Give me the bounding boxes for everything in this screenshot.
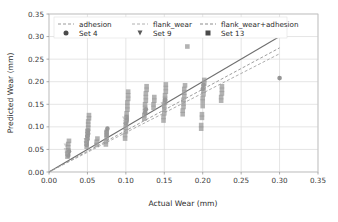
scatter-plot: 0.000.050.100.150.200.250.300.35 0.000.0…	[0, 0, 338, 222]
legend-label-set-4: Set 4	[79, 29, 98, 38]
y-tick-label: 0.25	[28, 55, 44, 64]
chart-figure: 0.000.050.100.150.200.250.300.35 0.000.0…	[0, 0, 338, 222]
x-tick-label: 0.30	[272, 176, 288, 185]
x-tick-label: 0.15	[156, 176, 172, 185]
x-tick-label: 0.05	[79, 176, 95, 185]
y-tick-label: 0.10	[28, 122, 44, 131]
data-point	[67, 139, 72, 144]
legend-label-flank_wear+adhesion: flank_wear+adhesion	[221, 20, 299, 29]
data-point	[200, 112, 205, 117]
data-point	[95, 136, 100, 141]
x-tick-label: 0.00	[41, 176, 57, 185]
data-point	[200, 104, 205, 109]
legend-label-set-9: Set 9	[153, 29, 172, 38]
data-point	[164, 82, 169, 87]
data-point	[87, 113, 92, 118]
legend-marker-square	[206, 31, 211, 36]
x-tick-label: 0.10	[118, 176, 134, 185]
data-point	[277, 76, 282, 81]
legend-label-adhesion: adhesion	[79, 20, 112, 29]
data-point	[144, 84, 149, 89]
x-tick-label: 0.25	[233, 176, 249, 185]
x-tick-label: 0.35	[310, 176, 326, 185]
y-tick-label: 0.20	[28, 77, 44, 86]
x-axis-title: Actual Wear (mm)	[149, 199, 218, 208]
y-tick-label: 0.15	[28, 100, 44, 109]
data-point	[126, 89, 131, 94]
legend-label-set-13: Set 13	[221, 29, 244, 38]
legend-marker-circle	[64, 31, 69, 36]
chart-legend: adhesionflank_wearflank_wear+adhesionSet…	[54, 17, 299, 38]
data-point	[202, 78, 207, 83]
y-tick-label: 0.30	[28, 32, 44, 41]
data-point	[220, 84, 225, 89]
data-point	[104, 130, 109, 135]
x-axis-ticks: 0.000.050.100.150.200.250.300.35	[41, 172, 326, 185]
data-point	[183, 83, 188, 88]
y-tick-label: 0.05	[28, 145, 44, 154]
x-tick-label: 0.20	[195, 176, 211, 185]
y-axis-title: Predicted Wear (mm)	[6, 53, 15, 134]
data-point	[199, 123, 204, 128]
y-axis-ticks: 0.000.050.100.150.200.250.300.35	[28, 10, 49, 177]
data-point	[152, 95, 157, 100]
data-point	[185, 44, 190, 49]
y-tick-label: 0.35	[28, 10, 44, 19]
y-tick-label: 0.00	[28, 168, 44, 177]
legend-label-flank_wear: flank_wear	[153, 20, 192, 29]
